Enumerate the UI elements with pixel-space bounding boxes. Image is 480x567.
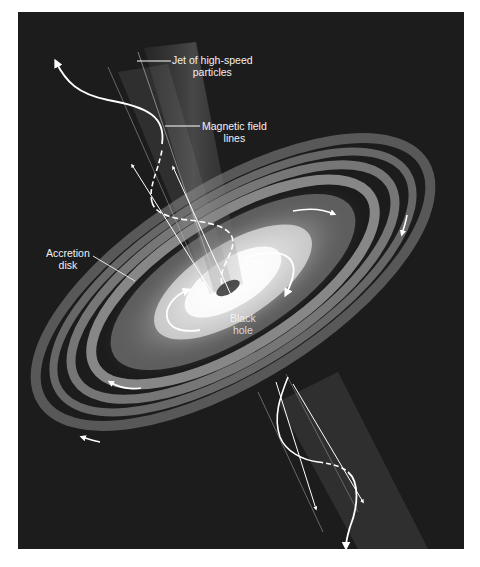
label-black-hole: Black hole [230,312,256,336]
label-jet-line2: particles [172,66,253,78]
label-black-hole-line1: Black [230,312,256,324]
black-hole-diagram: Jet of high-speed particles Magnetic fie… [18,12,464,549]
label-jet: Jet of high-speed particles [172,54,253,78]
jet-beam-lower [258,372,428,549]
label-accretion-line2: disk [46,259,90,271]
label-magnetic-line2: lines [202,132,267,144]
label-jet-line1: Jet of high-speed [172,54,253,66]
label-magnetic-line1: Magnetic field [202,120,267,132]
label-black-hole-line2: hole [230,324,256,336]
label-accretion-line1: Accretion [46,247,90,259]
diagram-canvas [18,12,464,549]
label-accretion-disk: Accretion disk [46,247,90,271]
label-magnetic-field: Magnetic field lines [202,120,267,144]
